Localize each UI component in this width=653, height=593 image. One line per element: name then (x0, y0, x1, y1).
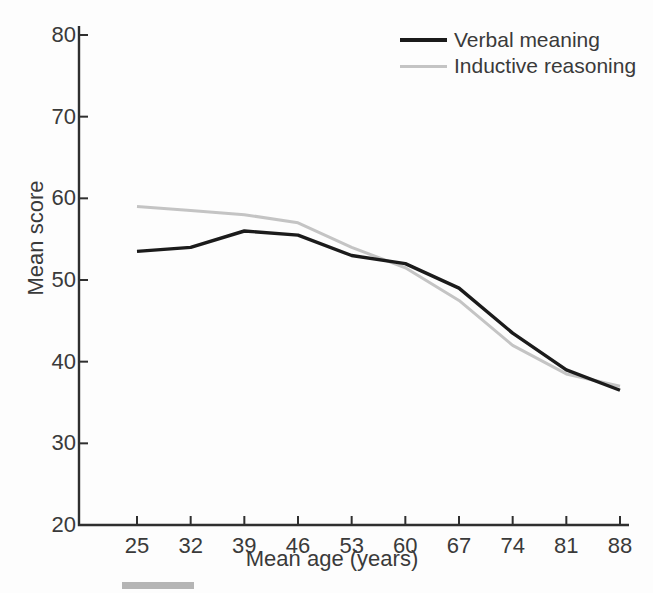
line-chart-figure: Mean score Mean age (years) Verbal meani… (0, 0, 653, 593)
y-tick-label: 80 (52, 22, 76, 48)
x-tick-label: 25 (125, 533, 149, 559)
legend-line-swatch-verbal-meaning (400, 38, 447, 42)
y-tick-label: 60 (52, 185, 76, 211)
plot-area (0, 0, 653, 593)
x-tick-label: 53 (339, 533, 363, 559)
legend-label-verbal-meaning: Verbal meaning (454, 28, 600, 52)
y-tick-label: 30 (52, 430, 76, 456)
scan-smudge-artifact (122, 582, 194, 589)
series-line-verbal-meaning (137, 231, 620, 390)
y-tick-label: 50 (52, 267, 76, 293)
x-tick-label: 46 (286, 533, 310, 559)
y-tick-label: 70 (52, 104, 76, 130)
legend-label-inductive-reasoning: Inductive reasoning (454, 54, 636, 78)
legend-row-inductive-reasoning: Inductive reasoning (400, 53, 636, 79)
x-tick-label: 67 (447, 533, 471, 559)
y-axis-title: Mean score (23, 181, 49, 296)
axes (79, 26, 629, 525)
legend: Verbal meaning Inductive reasoning (400, 27, 636, 79)
x-tick-label: 88 (608, 533, 632, 559)
legend-row-verbal-meaning: Verbal meaning (400, 27, 636, 53)
x-tick-label: 60 (393, 533, 417, 559)
y-tick-label: 20 (52, 512, 76, 538)
x-tick-label: 74 (500, 533, 524, 559)
x-tick-label: 39 (232, 533, 256, 559)
x-tick-label: 81 (554, 533, 578, 559)
x-tick-label: 32 (178, 533, 202, 559)
y-tick-label: 40 (52, 349, 76, 375)
series-line-inductive-reasoning (137, 207, 620, 387)
legend-line-swatch-inductive-reasoning (400, 65, 447, 68)
